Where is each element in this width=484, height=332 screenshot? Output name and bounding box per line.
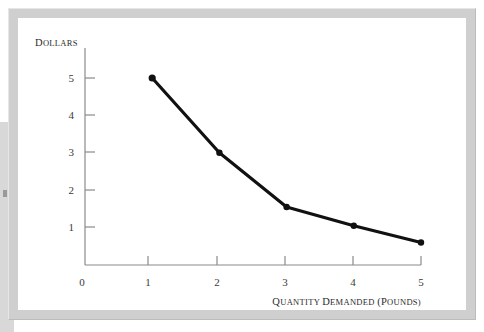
figure-canvas: 5 4 3 2 1 0 1 2 3 4 5 DOLLARS QUANTITY D…	[18, 18, 466, 310]
demand-curve-chart: 5 4 3 2 1 0 1 2 3 4 5 DOLLARS QUANTITY D…	[18, 18, 466, 310]
x-axis-title-w1-rest: UANTITY	[280, 297, 320, 307]
x-axis-title-w3-initial: (P	[377, 296, 387, 308]
x-axis-title-w1-initial: Q	[272, 296, 280, 307]
y-tick-label-2: 2	[69, 184, 75, 196]
x-axis-ticks	[148, 256, 421, 265]
axes-group	[85, 48, 421, 265]
x-tick-label-0: 0	[79, 276, 85, 288]
data-point	[283, 204, 289, 210]
y-tick-label-1: 1	[69, 221, 75, 233]
x-axis-title: QUANTITY DEMANDED (POUNDS)	[272, 296, 421, 308]
x-axis-tick-labels: 0 1 2 3 4 5	[79, 276, 424, 288]
y-tick-label-5: 5	[69, 72, 75, 84]
y-tick-label-3: 3	[69, 146, 75, 158]
y-axis-title-rest: OLLARS	[43, 38, 78, 48]
data-point	[418, 239, 424, 245]
x-tick-label-2: 2	[214, 276, 220, 288]
y-axis-tick-labels: 5 4 3 2 1	[69, 72, 75, 233]
demand-curve-line	[152, 78, 421, 243]
y-axis-title-initial: D	[35, 37, 43, 48]
scan-edge-artifact	[3, 190, 7, 197]
y-axis-title: DOLLARS	[35, 37, 78, 48]
x-axis-title-w3-rest: OUNDS)	[387, 297, 421, 307]
x-axis-title-w2-initial: D	[322, 296, 330, 307]
x-tick-label-3: 3	[282, 276, 288, 288]
x-tick-label-5: 5	[418, 276, 424, 288]
data-point	[351, 223, 357, 229]
y-axis-ticks	[85, 78, 95, 227]
data-point	[216, 150, 222, 156]
data-point	[149, 74, 156, 81]
x-axis-title-w2-rest: EMANDED	[330, 297, 375, 307]
y-tick-label-4: 4	[69, 109, 75, 121]
demand-curve-markers	[149, 74, 425, 245]
x-tick-label-1: 1	[145, 276, 151, 288]
x-tick-label-4: 4	[350, 276, 356, 288]
